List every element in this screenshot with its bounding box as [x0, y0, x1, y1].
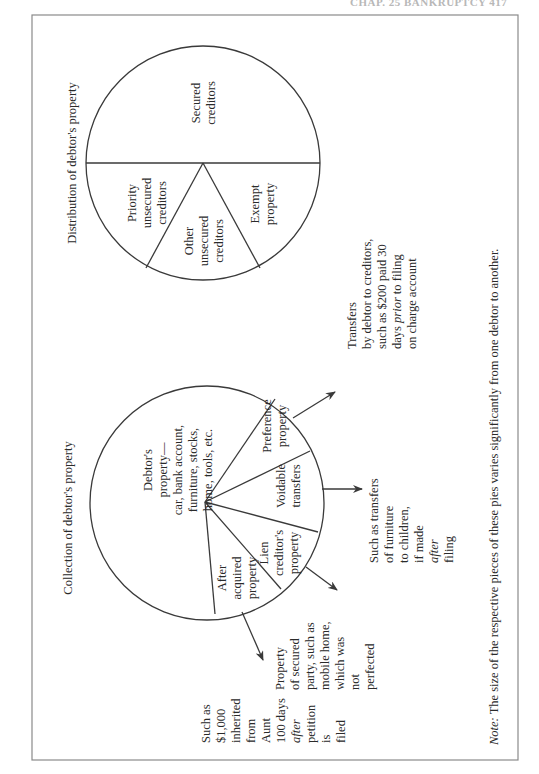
slice-label-exempt: Exempt property [248, 182, 277, 225]
svg-text:unsecured: unsecured [140, 177, 154, 228]
svg-text:Secured: Secured [189, 82, 203, 123]
svg-text:Exempt: Exempt [248, 184, 262, 223]
svg-text:after: after [427, 539, 441, 563]
svg-text:unsecured: unsecured [197, 215, 211, 266]
svg-text:after: after [289, 719, 303, 743]
arrow-after [242, 612, 263, 660]
svg-text:Aunt: Aunt [259, 717, 273, 743]
svg-text:creditors: creditors [204, 81, 218, 125]
svg-text:not: not [348, 674, 362, 691]
svg-text:of secured: of secured [288, 638, 302, 690]
svg-text:party, such as: party, such as [303, 622, 317, 690]
svg-text:petition: petition [304, 704, 318, 743]
svg-text:Transfers: Transfers [345, 302, 359, 349]
slice-label-priority: Priority unsecured creditors [125, 177, 169, 228]
svg-text:Such as: Such as [199, 704, 213, 743]
svg-text:property—: property— [156, 442, 170, 497]
svg-text:100 days: 100 days [274, 698, 288, 743]
callout-lien: Property of secured party, such as mobil… [273, 621, 377, 690]
svg-text:of furniture: of furniture [382, 505, 396, 563]
svg-text:Lien: Lien [257, 541, 271, 565]
svg-text:creditors: creditors [155, 181, 169, 225]
callout-after: Such as $1,000 inherited from Aunt 100 d… [199, 698, 348, 743]
svg-text:from: from [244, 718, 258, 743]
arrow-lien [306, 567, 337, 590]
svg-text:furniture, stocks,: furniture, stocks, [186, 428, 200, 512]
svg-text:$1,000: $1,000 [214, 709, 228, 743]
svg-text:Voidable: Voidable [274, 463, 288, 508]
svg-text:perfected: perfected [363, 643, 377, 690]
svg-text:Debtor's: Debtor's [141, 449, 155, 491]
svg-text:property: property [287, 531, 301, 574]
svg-text:filed: filed [334, 719, 348, 743]
svg-text:car, bank account,: car, bank account, [171, 425, 185, 515]
arrow-preference [293, 392, 335, 418]
footnote-label: Note: [487, 717, 501, 746]
running-header: CHAP. 25 BANKRUPTCY 417 [350, 0, 507, 8]
slice-label-voidable: Voidable transfers [274, 463, 303, 508]
svg-text:Preference: Preference [260, 399, 274, 453]
figure-canvas: CHAP. 25 BANKRUPTCY 417 Distribution of … [0, 0, 539, 774]
svg-text:filing: filing [442, 535, 456, 563]
slice-label-secured: Secured creditors [189, 81, 218, 125]
svg-text:such as $200 paid 30: such as $200 paid 30 [375, 244, 389, 349]
footnote-text: The size of the respective pieces of the… [487, 249, 501, 718]
svg-text:property: property [245, 556, 259, 599]
footnote: Note: The size of the respective pieces … [487, 249, 501, 747]
svg-text:on charge account: on charge account [405, 258, 419, 349]
svg-text:property: property [263, 182, 277, 225]
svg-text:Property: Property [273, 646, 287, 690]
callout-preference: Transfers by debtor to creditors, such a… [345, 239, 419, 349]
collection-title: Collection of debtor's property [61, 441, 75, 595]
svg-text:creditors: creditors [212, 219, 226, 263]
svg-text:property: property [275, 404, 289, 447]
svg-text:home, tools, etc.: home, tools, etc. [201, 429, 215, 511]
svg-text:Priority: Priority [125, 183, 139, 222]
svg-text:acquired: acquired [230, 556, 244, 600]
svg-text:to children,: to children, [397, 506, 411, 563]
svg-text:by debtor to creditors,: by debtor to creditors, [360, 239, 374, 349]
slice-label-preference: Preference property [260, 399, 289, 453]
svg-text:creditor's: creditor's [272, 530, 286, 576]
svg-text:After: After [215, 564, 229, 591]
callout-voidable: Such as transfers of furniture to childr… [367, 478, 456, 563]
svg-text:is: is [319, 735, 333, 743]
svg-text:transfers: transfers [289, 464, 303, 507]
svg-text:which was: which was [333, 637, 347, 690]
distribution-title: Distribution of debtor's property [65, 81, 79, 243]
svg-text:if made: if made [412, 525, 426, 563]
svg-text:days prior to filing: days prior to filing [390, 253, 404, 349]
svg-text:inherited: inherited [229, 698, 243, 743]
svg-text:mobile home,: mobile home, [318, 621, 332, 690]
svg-text:Other: Other [182, 226, 196, 255]
svg-text:Such as transfers: Such as transfers [367, 478, 381, 563]
